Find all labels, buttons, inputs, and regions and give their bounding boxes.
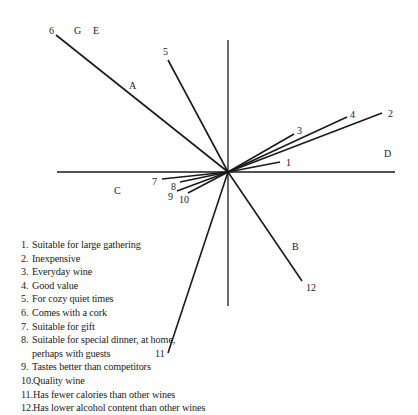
vector-label-10: 10 [179,194,189,205]
legend-item: 5.For cozy quiet times [21,292,205,306]
legend-number: 8. [21,333,32,360]
vector-label-2: 2 [388,108,393,119]
vector-label-1: 1 [286,157,291,168]
legend-item: 1.Suitable for large gathering [21,238,205,252]
legend-number: 7. [21,320,32,334]
legend-text: Everyday wine [32,265,92,279]
legend-text: Good value [32,279,78,293]
legend-number: 2. [21,252,32,266]
segment-label-g: G [74,25,81,36]
legend-text: Comes with a cork [32,306,107,320]
legend-item: 6.Comes with a cork [21,306,205,320]
vector-label-12: 12 [306,282,316,293]
segment-label-a: A [129,80,137,91]
attribute-legend: 1.Suitable for large gathering2.Inexpens… [21,238,205,415]
legend-item: 3.Everyday wine [21,265,205,279]
legend-number: 10. [21,374,33,388]
legend-item: 12.Has lower alcohol content than other … [21,401,205,415]
legend-number: 3. [21,265,32,279]
legend-item: 4.Good value [21,279,205,293]
legend-text: Tastes better than competitors [32,360,151,374]
segment-label-b: B [292,241,299,252]
legend-item: 10.Quality wine [21,374,205,388]
vector-label-5: 5 [163,46,168,57]
vector-label-6: 6 [49,25,54,36]
segment-label-d: D [384,148,391,159]
legend-item: 8.Suitable for special dinner, at home, … [21,333,205,360]
attribute-vector-2 [228,113,382,172]
attribute-vector-6 [56,35,228,172]
legend-text: Has lower alcohol content than other win… [33,401,205,415]
legend-item: 9.Tastes better than competitors [21,360,205,374]
vector-label-3: 3 [297,125,302,136]
legend-number: 9. [21,360,32,374]
attribute-vector-12 [228,172,302,281]
vector-label-4: 4 [350,109,355,120]
legend-text: Inexpensive [32,252,80,266]
legend-text: Has fewer calories than other wines [33,388,175,402]
segment-label-e: E [93,25,99,36]
legend-text: Suitable for large gathering [32,238,141,252]
legend-number: 12. [21,401,33,415]
legend-text: Quality wine [33,374,85,388]
segment-label-c: C [114,185,121,196]
legend-number: 11. [21,388,33,402]
legend-text: Suitable for gift [32,320,95,334]
legend-number: 1. [21,238,32,252]
legend-number: 6. [21,306,32,320]
attribute-vector-5 [168,60,228,172]
legend-text: For cozy quiet times [32,292,113,306]
legend-number: 4. [21,279,32,293]
legend-item: 7.Suitable for gift [21,320,205,334]
legend-number: 5. [21,292,32,306]
legend-item: 11.Has fewer calories than other wines [21,388,205,402]
legend-item: 2.Inexpensive [21,252,205,266]
legend-text: Suitable for special dinner, at home, pe… [32,333,175,360]
vector-label-9: 9 [168,191,173,202]
segment-labels: ABCDEG [74,25,391,252]
vector-label-7: 7 [152,176,157,187]
